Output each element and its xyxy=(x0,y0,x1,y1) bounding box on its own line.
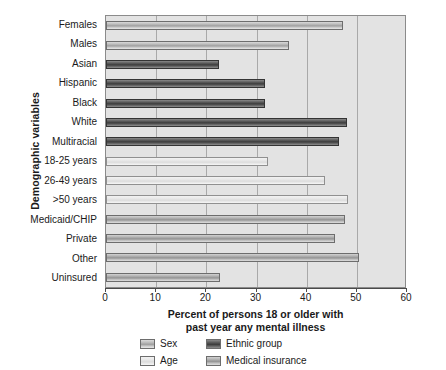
bar-row xyxy=(106,171,405,190)
legend-swatch-icon xyxy=(140,339,155,349)
legend-item[interactable]: Sex xyxy=(140,335,198,352)
x-axis-tick-label: 20 xyxy=(190,292,220,303)
bar[interactable] xyxy=(106,21,343,30)
bar[interactable] xyxy=(106,41,289,50)
legend-swatch-icon xyxy=(140,356,155,366)
plot-area xyxy=(105,15,406,288)
bar[interactable] xyxy=(106,60,219,69)
legend-label: Medical insurance xyxy=(226,355,307,366)
x-axis-tick-label: 30 xyxy=(241,292,271,303)
x-axis-tick-label: 40 xyxy=(291,292,321,303)
y-axis-tick-label: White xyxy=(0,113,101,133)
y-axis-tick-label: 18-25 years xyxy=(0,152,101,172)
y-axis-tick-label: Females xyxy=(0,15,101,35)
y-axis-tick-label: Black xyxy=(0,93,101,113)
bar-row xyxy=(106,113,405,132)
bar-row xyxy=(106,55,405,74)
legend-swatch-icon xyxy=(206,339,221,349)
bar[interactable] xyxy=(106,253,359,262)
x-axis-title-line-1: Percent of persons 18 or older with xyxy=(105,308,406,321)
legend-label: Sex xyxy=(160,338,177,349)
y-axis-tick-label: >50 years xyxy=(0,191,101,211)
bar-row xyxy=(106,132,405,151)
legend-label: Age xyxy=(160,355,178,366)
bar[interactable] xyxy=(106,273,220,282)
bar-row xyxy=(106,229,405,248)
x-axis-tick-label: 10 xyxy=(140,292,170,303)
y-axis-tick-label: Private xyxy=(0,230,101,250)
y-axis-tick-labels: FemalesMalesAsianHispanicBlackWhiteMulti… xyxy=(0,15,101,288)
legend-item[interactable]: Ethnic group xyxy=(206,335,338,352)
y-axis-tick-label: Males xyxy=(0,35,101,55)
x-axis-tick-label: 60 xyxy=(391,292,421,303)
bar-series-container xyxy=(106,16,405,287)
legend-label: Ethnic group xyxy=(226,338,282,349)
legend-item[interactable]: Age xyxy=(140,352,198,369)
y-axis-tick-label: Hispanic xyxy=(0,74,101,94)
bar[interactable] xyxy=(106,137,339,146)
bar[interactable] xyxy=(106,79,265,88)
x-axis-title: Percent of persons 18 or older with past… xyxy=(105,308,406,334)
chart-figure: Demographic variables FemalesMalesAsianH… xyxy=(0,0,446,370)
y-axis-tick-label: Medicaid/CHIP xyxy=(0,210,101,230)
bar[interactable] xyxy=(106,176,325,185)
legend-item[interactable]: Medical insurance xyxy=(206,352,338,369)
bar-row xyxy=(106,268,405,287)
bar[interactable] xyxy=(106,157,268,166)
bar-row xyxy=(106,152,405,171)
bar[interactable] xyxy=(106,215,345,224)
bar[interactable] xyxy=(106,234,335,243)
x-axis-tick-label: 0 xyxy=(90,292,120,303)
bar-row xyxy=(106,93,405,112)
bar[interactable] xyxy=(106,99,265,108)
bar-row xyxy=(106,210,405,229)
y-axis-tick-label: Multiracial xyxy=(0,132,101,152)
y-axis-tick-label: Uninsured xyxy=(0,269,101,289)
x-axis-title-line-2: past year any mental illness xyxy=(105,321,406,334)
bar-row xyxy=(106,16,405,35)
bar[interactable] xyxy=(106,118,347,127)
y-axis-tick-label: 26-49 years xyxy=(0,171,101,191)
y-axis-tick-label: Other xyxy=(0,249,101,269)
bar[interactable] xyxy=(106,195,348,204)
x-axis-tick-label: 50 xyxy=(341,292,371,303)
legend-swatch-icon xyxy=(206,356,221,366)
bar-row xyxy=(106,74,405,93)
bar-row xyxy=(106,248,405,267)
y-axis-tick-label: Asian xyxy=(0,54,101,74)
chart-legend: SexEthnic groupAgeMedical insurance xyxy=(140,335,400,369)
bar-row xyxy=(106,35,405,54)
bar-row xyxy=(106,190,405,209)
